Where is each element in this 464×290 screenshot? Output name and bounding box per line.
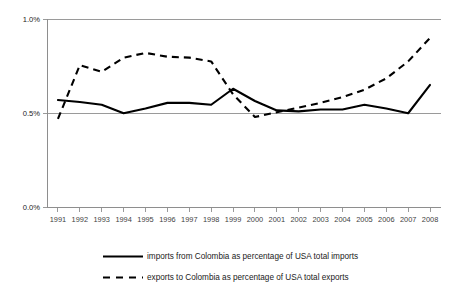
line-chart: 1.0% 0.5% 0.0% 1991199219931994199519961… bbox=[0, 0, 464, 290]
x-tick-label-1998: 1998 bbox=[203, 215, 219, 224]
x-tick-label-2003: 2003 bbox=[312, 215, 328, 224]
x-tick-label-2007: 2007 bbox=[400, 215, 416, 224]
chart-figure: 1.0% 0.5% 0.0% 1991199219931994199519961… bbox=[0, 0, 464, 290]
chart-background bbox=[0, 0, 464, 290]
x-tick-label-1993: 1993 bbox=[93, 215, 109, 224]
x-tick-label-2005: 2005 bbox=[356, 215, 372, 224]
y-tick-label-0-0: 0.0% bbox=[23, 203, 41, 212]
x-tick-label-1996: 1996 bbox=[159, 215, 175, 224]
x-tick-label-1994: 1994 bbox=[115, 215, 131, 224]
x-tick-label-1997: 1997 bbox=[181, 215, 197, 224]
x-tick-label-2006: 2006 bbox=[378, 215, 394, 224]
x-tick-label-2002: 2002 bbox=[290, 215, 306, 224]
x-tick-label-1995: 1995 bbox=[137, 215, 153, 224]
x-tick-label-2000: 2000 bbox=[247, 215, 263, 224]
x-tick-label-2004: 2004 bbox=[334, 215, 350, 224]
legend-label-imports: imports from Colombia as percentage of U… bbox=[147, 252, 358, 261]
x-tick-label-1991: 1991 bbox=[50, 215, 66, 224]
x-tick-label-1999: 1999 bbox=[225, 215, 241, 224]
x-tick-label-2001: 2001 bbox=[269, 215, 285, 224]
x-tick-label-2008: 2008 bbox=[422, 215, 438, 224]
y-tick-label-1-0: 1.0% bbox=[23, 15, 41, 24]
x-tick-label-1992: 1992 bbox=[72, 215, 88, 224]
y-tick-label-0-5: 0.5% bbox=[23, 109, 41, 118]
legend-label-exports: exports to Colombia as percentage of USA… bbox=[147, 273, 349, 282]
